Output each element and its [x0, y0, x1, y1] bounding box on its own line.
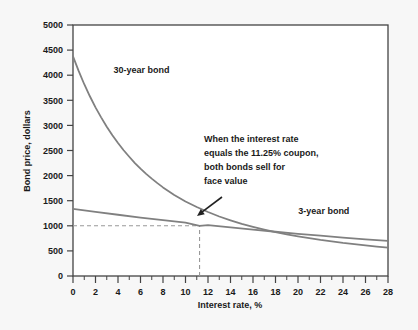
- x-tick-label: 0: [70, 287, 75, 297]
- x-tick-label: 12: [203, 287, 213, 297]
- x-tick-label: 10: [180, 287, 190, 297]
- x-tick-label: 16: [248, 287, 258, 297]
- annotation-line-4: face value: [204, 176, 248, 186]
- y-tick-label: 2500: [43, 146, 63, 156]
- bond-price-chart: 0500100015002000250030003500400045005000…: [0, 0, 418, 330]
- y-tick-label: 1500: [43, 196, 63, 206]
- annotation-line-1: When the interest rate: [204, 134, 299, 144]
- annotation-line-2: equals the 11.25% coupon,: [204, 148, 319, 158]
- y-tick-label: 2000: [43, 171, 63, 181]
- x-tick-label: 14: [225, 287, 235, 297]
- y-tick-label: 1000: [43, 221, 63, 231]
- x-tick-label: 20: [293, 287, 303, 297]
- x-tick-label: 26: [360, 287, 370, 297]
- x-axis-title: Interest rate, %: [198, 300, 263, 310]
- annotation-line-3: both bonds sell for: [204, 162, 285, 172]
- x-tick-label: 18: [270, 287, 280, 297]
- y-tick-label: 3000: [43, 121, 63, 131]
- x-tick-label: 4: [115, 287, 120, 297]
- x-tick-label: 8: [160, 287, 165, 297]
- series-label-30-year-bond: 30-year bond: [114, 65, 170, 75]
- x-tick-label: 24: [338, 287, 348, 297]
- y-tick-label: 3500: [43, 96, 63, 106]
- x-tick-label: 22: [315, 287, 325, 297]
- y-tick-label: 0: [58, 271, 63, 281]
- y-tick-label: 4000: [43, 70, 63, 80]
- x-tick-label: 2: [93, 287, 98, 297]
- y-tick-label: 5000: [43, 20, 63, 30]
- x-tick-label: 6: [138, 287, 143, 297]
- x-tick-label: 28: [383, 287, 393, 297]
- y-axis-title: Bond price, dollars: [22, 110, 32, 192]
- chart-svg: 0500100015002000250030003500400045005000…: [0, 0, 418, 330]
- y-tick-label: 500: [48, 246, 63, 256]
- series-label-3-year-bond: 3-year bond: [298, 206, 349, 216]
- y-tick-label: 4500: [43, 45, 63, 55]
